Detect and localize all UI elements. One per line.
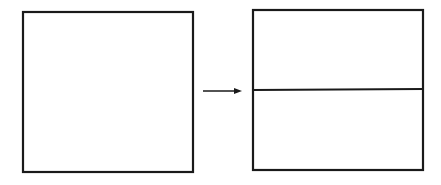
original-square xyxy=(23,12,193,172)
diagram-canvas xyxy=(0,0,441,185)
right-arrow-icon xyxy=(203,88,242,94)
horizontal-divider xyxy=(253,89,423,90)
